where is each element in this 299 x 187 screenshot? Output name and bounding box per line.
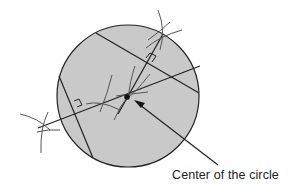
center-point [124,94,130,100]
center-of-circle-label: Center of the circle [172,168,279,182]
geometry-diagram [0,0,299,187]
compass-arcs-left [20,112,60,153]
